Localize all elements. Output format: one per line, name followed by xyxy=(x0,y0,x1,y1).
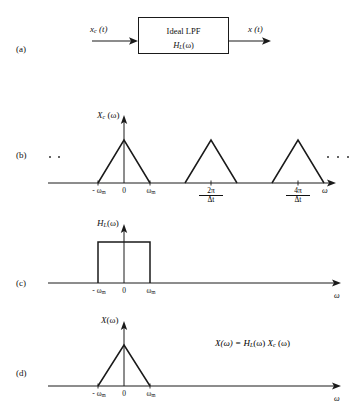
panel-d-plot xyxy=(0,0,359,417)
panel-d-ticklabel-pos-wm: ωm xyxy=(140,389,162,398)
figure-canvas: (a) xc (t) Ideal LPF HL(ω) x (t) (b) Xc … xyxy=(0,0,359,417)
panel-d-equation: X(ω) = HL(ω) Xc (ω) xyxy=(215,338,290,348)
panel-d-xaxis-label: ω xyxy=(334,394,340,403)
panel-d-ticklabel-zero: 0 xyxy=(114,389,134,398)
panel-d-ticklabel-neg-wm: - ωm xyxy=(86,389,112,398)
